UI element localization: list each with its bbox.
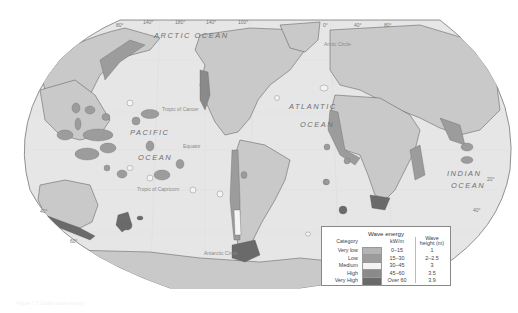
wave-energy-legend: Wave energy Category kW/m Wave height (m…	[321, 226, 451, 286]
label-atlantic-ocean-2: OCEAN	[300, 120, 334, 129]
graticule-label-top-7: 80°	[384, 22, 392, 28]
label-arctic-ocean: ARCTIC OCEAN	[153, 31, 229, 40]
graticule-label-left-1: 60°	[70, 238, 78, 244]
legend-row-wave-height: 3.9	[418, 276, 446, 284]
label-indian-ocean-2: OCEAN	[451, 181, 485, 190]
label-atlantic-ocean-1: ATLANTIC	[288, 102, 337, 111]
graticule-label-top-0: 80°	[116, 22, 124, 28]
graticule-label-right-1: 40°	[473, 207, 481, 213]
legend-header-category: Category	[326, 238, 358, 244]
legend-row-kw: Over 60	[384, 276, 410, 284]
label-tropic-of-capricorn: Tropic of Capricorn	[137, 186, 180, 192]
graticule-label-top-4: 100°	[238, 19, 248, 25]
graticule-label-left-0: 40°	[40, 208, 48, 214]
label-equator: Equator	[183, 143, 201, 149]
graticule-label-top-5: 0°	[323, 22, 328, 28]
label-arctic-circle: Arctic Circle	[324, 41, 351, 47]
label-pacific-ocean-2: OCEAN	[138, 153, 172, 162]
graticule-label-top-3: 140°	[206, 19, 216, 25]
figure-caption: Figure 7.7 Global wave energy	[16, 300, 84, 306]
graticule-label-top-1: 140°	[143, 19, 153, 25]
legend-row-category: Very High	[326, 276, 358, 284]
band-chile-medium	[234, 210, 241, 235]
legend-divider	[415, 237, 416, 283]
land-australia	[38, 180, 98, 228]
graticule-label-right-0: 20°	[487, 176, 495, 182]
label-indian-ocean-1: INDIAN	[447, 169, 481, 178]
legend-header-kw: kW/m	[384, 238, 410, 244]
graticule-label-top-2: 180°	[175, 19, 185, 25]
label-pacific-ocean-1: PACIFIC	[130, 128, 170, 137]
graticule-label-top-6: 40°	[354, 22, 362, 28]
label-antarctic-circle: Antarctic Circle	[204, 250, 238, 256]
label-tropic-of-cancer: Tropic of Cancer	[162, 106, 199, 112]
legend-swatch	[362, 277, 382, 286]
